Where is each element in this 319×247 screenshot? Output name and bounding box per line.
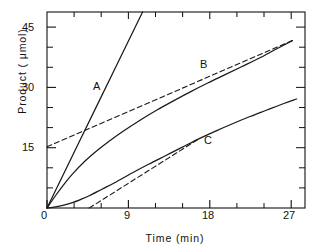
curve-label-c: C bbox=[204, 134, 212, 146]
curve-c-extrapolation bbox=[89, 139, 199, 208]
x-tick-label-18: 18 bbox=[202, 209, 214, 221]
x-minor-ticks bbox=[74, 203, 264, 208]
y-tick-label-15: 15 bbox=[22, 141, 34, 153]
x-axis-title: Time (min) bbox=[146, 232, 205, 244]
curve-a bbox=[47, 12, 143, 208]
y-minor-ticks bbox=[47, 47, 53, 188]
curve-b-extrapolation bbox=[47, 41, 292, 147]
y-axis-title: Product ( μmol) bbox=[16, 28, 28, 113]
data-curves bbox=[47, 12, 297, 208]
x-tick-label-27: 27 bbox=[283, 209, 295, 221]
curve-c bbox=[47, 99, 297, 208]
y-tick-label-0: 0 bbox=[41, 209, 47, 221]
curve-b bbox=[47, 41, 292, 208]
figure-container: 45 30 15 0 9 18 27 Product ( μmol) Time … bbox=[0, 0, 319, 247]
curve-label-a: A bbox=[93, 80, 100, 92]
curve-label-b: B bbox=[200, 58, 207, 70]
x-tick-label-9: 9 bbox=[124, 209, 130, 221]
x-major-ticks bbox=[47, 200, 291, 208]
right-axis-ticks bbox=[296, 27, 305, 188]
top-axis-ticks bbox=[74, 12, 291, 19]
chart-canvas bbox=[0, 0, 319, 247]
y-major-ticks bbox=[47, 27, 56, 148]
x-axis-title-wrap: Time (min) bbox=[45, 228, 305, 246]
y-axis-title-wrap: Product ( μmol) bbox=[12, 6, 30, 136]
